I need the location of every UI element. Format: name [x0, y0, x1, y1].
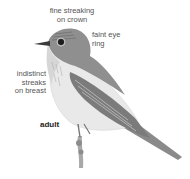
twig — [76, 136, 84, 168]
label-line: ring — [92, 40, 132, 49]
label-breast-streaks: indistinct streaks on breast — [6, 70, 46, 96]
label-line: on crown — [46, 16, 98, 25]
eye — [58, 39, 64, 45]
label-age-adult: adult — [40, 121, 59, 130]
label-eye-ring: faint eye ring — [92, 31, 132, 48]
label-crown-streaking: fine streaking on crown — [46, 7, 98, 24]
label-line: on breast — [6, 87, 46, 96]
bird-illustration: fine streaking on crown faint eye ring i… — [0, 0, 190, 179]
beak — [34, 41, 50, 46]
